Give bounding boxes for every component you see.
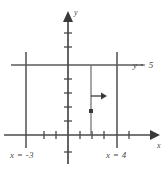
label-line-x-equals-4: x = 4 [106,150,127,160]
x-axis-label: x [157,141,161,150]
coordinate-graph-svg [0,0,166,171]
y-axis-arrowhead [63,11,73,22]
x-axis-arrowhead [150,130,160,140]
y-axis-label: y [74,8,78,17]
interior-arrow-head [101,93,107,100]
coordinate-plane-region: y = 5 x = -3 x = 4 x y [0,0,166,171]
interior-segment-dot-marker [89,109,93,113]
label-line-x-equals-neg3: x = -3 [10,150,34,160]
label-line-y-equals-5: y = 5 [133,60,154,70]
